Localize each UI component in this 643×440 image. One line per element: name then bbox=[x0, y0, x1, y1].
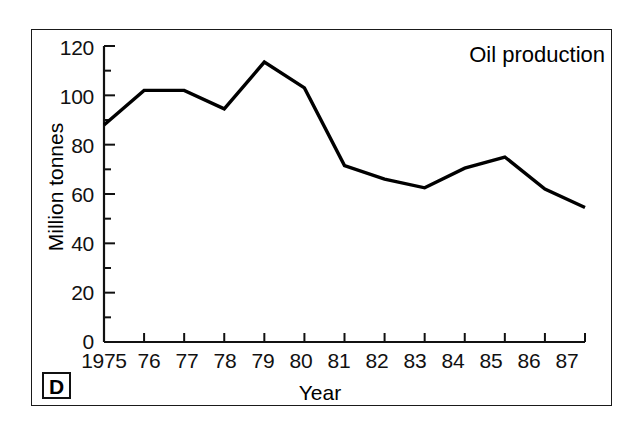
figure-panel: Oil production Million tonnes Year D 120… bbox=[0, 0, 643, 440]
chart-title: Oil production bbox=[469, 42, 605, 68]
y-tick-label-60: 60 bbox=[32, 183, 94, 207]
y-tick-label-40: 40 bbox=[32, 232, 94, 256]
y-tick-label-80: 80 bbox=[32, 134, 94, 158]
y-tick-label-20: 20 bbox=[32, 281, 94, 305]
y-tick-label-120: 120 bbox=[32, 36, 94, 60]
x-axis-title: Year bbox=[240, 381, 400, 405]
panel-label-badge: D bbox=[42, 372, 71, 399]
y-tick-label-100: 100 bbox=[32, 85, 94, 109]
x-tick-label-87: 87 bbox=[533, 349, 601, 373]
